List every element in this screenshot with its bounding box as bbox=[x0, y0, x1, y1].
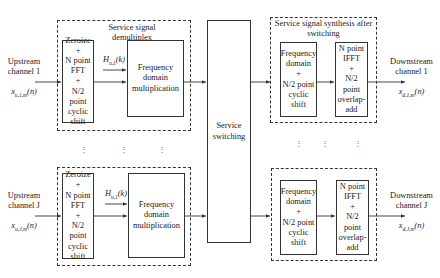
output-signal-arg: (n) bbox=[414, 221, 424, 230]
output-channel-name: Downstream channel J bbox=[390, 191, 433, 210]
ellipsis-dots: ⋮ bbox=[80, 146, 84, 154]
filter-label-row1: Hu,1(k) bbox=[98, 55, 130, 68]
ifft-block-rowJ: N point IFFT + N/2 point overlap- add bbox=[336, 180, 369, 255]
output-signal-arg: (n) bbox=[415, 87, 425, 96]
mult-block-row1: Frequency domain multiplication bbox=[127, 40, 184, 117]
shift-block-row1: Frequency domain + N/2 point cyclic shif… bbox=[280, 42, 317, 117]
input-signal-arg: (n) bbox=[27, 221, 37, 230]
input-channel-name: Upstream channel 1 bbox=[8, 57, 41, 76]
input-signal-arg: (n) bbox=[27, 87, 37, 96]
output-label-rowJ: Downstream channel J xd,J,m(n) bbox=[383, 181, 440, 234]
filter-subscript: u,1 bbox=[111, 194, 118, 200]
synth-group-title: Service signal synthesis after switching bbox=[270, 19, 377, 38]
input-label-rowJ: Upstream channel J xu,J,m(n) bbox=[0, 181, 48, 234]
ellipsis-dots: ⋮ bbox=[295, 140, 299, 148]
ellipsis-dots: ⋮ bbox=[158, 146, 162, 154]
filter-subscript: u,1 bbox=[109, 60, 116, 66]
output-label-row1: Downstream channel 1 xd,1,m(n) bbox=[383, 47, 440, 100]
ellipsis-dots: ⋮ bbox=[354, 140, 358, 148]
input-signal-subscript: u,J,m bbox=[15, 226, 27, 232]
output-signal-subscript: d,1,m bbox=[402, 92, 414, 98]
ellipsis-dots: ⋮ bbox=[321, 140, 325, 148]
filter-arg: (k) bbox=[116, 55, 125, 64]
input-signal-subscript: u,1,m bbox=[15, 92, 27, 98]
fft-block-row1: Zeroize + N point FFT + N/2 point cyclic… bbox=[62, 40, 94, 123]
mult-block-rowJ: Frequency domain multiplication bbox=[128, 173, 185, 258]
ellipsis-dots: ⋮ bbox=[120, 146, 124, 154]
output-signal-subscript: d,J,m bbox=[403, 226, 415, 232]
ifft-block-row1: N point IFFT + N/2 point overlap- add bbox=[335, 42, 368, 117]
shift-block-rowJ: Frequency domain + N/2 point cyclic shif… bbox=[280, 180, 317, 255]
service-switching-block: Service switching bbox=[207, 20, 251, 243]
output-channel-name: Downstream channel 1 bbox=[390, 57, 433, 76]
filter-arg: (k) bbox=[118, 189, 127, 198]
input-label-row1: Upstream channel 1 xu,1,m(n) bbox=[0, 47, 48, 100]
fft-block-rowJ: Zeroize + N point FFT + N/2 point cyclic… bbox=[62, 173, 94, 259]
input-channel-name: Upstream channel J bbox=[8, 191, 41, 210]
